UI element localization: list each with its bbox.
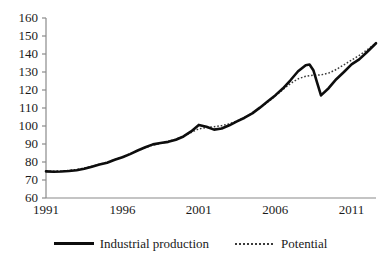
legend-label-potential: Potential	[281, 236, 327, 251]
x-tick-label: 2011	[329, 203, 375, 216]
y-tick-label: 100	[4, 119, 38, 132]
chart-container: 16015014013012011010090807060 1991199620…	[0, 0, 381, 268]
x-tick-label: 2006	[252, 203, 298, 216]
y-tick-label: 90	[4, 137, 38, 150]
legend-swatch-dotted-line-icon	[235, 243, 275, 245]
chart-plot-area	[0, 0, 381, 268]
series-line-potential	[46, 43, 376, 171]
series-line-industrial-production	[46, 43, 376, 172]
x-tick-label: 2001	[176, 203, 222, 216]
y-tick-label: 70	[4, 173, 38, 186]
legend-item-potential: Potential	[235, 236, 327, 251]
legend-label-industrial-production: Industrial production	[100, 236, 209, 251]
y-tick-label: 160	[4, 11, 38, 24]
chart-legend: Industrial production Potential	[0, 236, 381, 251]
y-tick-label: 150	[4, 29, 38, 42]
x-tick-label: 1991	[23, 203, 69, 216]
y-tick-label: 110	[4, 101, 38, 114]
legend-swatch-solid-line-icon	[54, 242, 94, 245]
y-tick-label: 80	[4, 155, 38, 168]
y-tick-label: 120	[4, 83, 38, 96]
y-tick-label: 130	[4, 65, 38, 78]
legend-item-industrial-production: Industrial production	[54, 236, 209, 251]
x-tick-label: 1996	[99, 203, 145, 216]
y-tick-label: 140	[4, 47, 38, 60]
